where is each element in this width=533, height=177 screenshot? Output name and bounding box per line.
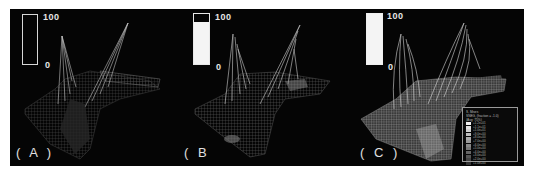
stress-legend: S, Mises SNEG, (fraction = -1.0) (Avg: 7… bbox=[462, 107, 518, 162]
legend-swatch bbox=[466, 144, 471, 147]
legend-value: +1.0e+00 bbox=[473, 162, 486, 166]
panel-c: 100 0 S, Mises SNEG, (fraction = -1.0) (… bbox=[356, 9, 524, 166]
panel-label-c: ( C ) bbox=[360, 145, 400, 160]
legend-swatch bbox=[466, 147, 471, 150]
legend-swatch bbox=[466, 155, 471, 158]
panel-b: 100 0 ( B bbox=[180, 9, 356, 166]
legend-swatch bbox=[466, 151, 471, 154]
legend-swatch bbox=[466, 137, 471, 140]
figure-strip: 100 0 ( A ) 100 0 bbox=[10, 9, 524, 166]
legend-rows: +1.2e+01+1.1e+01+1.0e+01+9.0e+00+8.0e+00… bbox=[466, 122, 514, 165]
legend-swatch bbox=[466, 129, 471, 132]
legend-swatch bbox=[466, 162, 471, 165]
legend-swatch bbox=[466, 133, 471, 136]
wireframe-model-a bbox=[10, 9, 180, 166]
legend-swatch bbox=[466, 122, 471, 125]
legend-swatch bbox=[466, 158, 471, 161]
legend-swatch bbox=[466, 126, 471, 129]
wireframe-model-b bbox=[180, 9, 356, 166]
legend-row: +1.0e+00 bbox=[466, 162, 514, 166]
panel-label-a: ( A ) bbox=[16, 145, 54, 160]
legend-swatch bbox=[466, 140, 471, 143]
panel-a: 100 0 ( A ) bbox=[10, 9, 180, 166]
panel-label-b: ( B bbox=[184, 145, 210, 160]
